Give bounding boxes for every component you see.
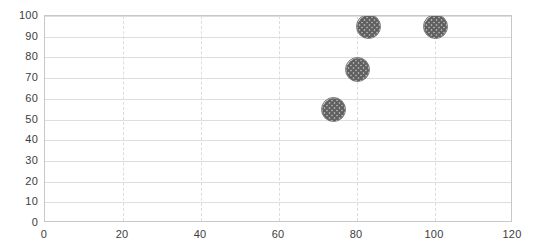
x-tick-label: 20 [102,229,142,240]
y-tick-label: 100 [0,10,38,21]
x-tick-label: 0 [24,229,64,240]
y-tick-label: 50 [0,114,38,125]
gridline-horizontal [45,161,511,162]
gridline-horizontal [45,182,511,183]
scatter-chart: 0102030405060708090100 020406080100120 [0,0,534,251]
gridline-vertical [279,16,280,221]
gridline-horizontal [45,78,511,79]
y-tick-label: 40 [0,134,38,145]
y-tick-label: 30 [0,155,38,166]
y-tick-label: 70 [0,72,38,83]
gridline-horizontal [45,57,511,58]
y-tick-label: 0 [0,217,38,228]
gridline-horizontal [45,120,511,121]
plot-area [44,15,512,222]
x-tick-label: 80 [336,229,376,240]
y-axis-labels: 0102030405060708090100 [0,0,38,251]
y-tick-label: 20 [0,176,38,187]
gridline-horizontal [45,99,511,100]
x-tick-label: 100 [414,229,454,240]
data-point-marker [345,57,370,82]
x-axis-labels: 020406080100120 [0,229,534,245]
x-tick-label: 120 [492,229,532,240]
x-tick-label: 60 [258,229,298,240]
data-point-marker [356,15,381,39]
data-point-marker [423,15,448,39]
gridline-vertical [435,16,436,221]
gridline-vertical [357,16,358,221]
gridline-vertical [201,16,202,221]
gridline-horizontal [45,202,511,203]
gridline-vertical [123,16,124,221]
data-point-marker [321,97,346,122]
y-tick-label: 90 [0,31,38,42]
gridline-horizontal [45,140,511,141]
x-tick-label: 40 [180,229,220,240]
y-tick-label: 60 [0,93,38,104]
y-tick-label: 80 [0,51,38,62]
y-tick-label: 10 [0,196,38,207]
